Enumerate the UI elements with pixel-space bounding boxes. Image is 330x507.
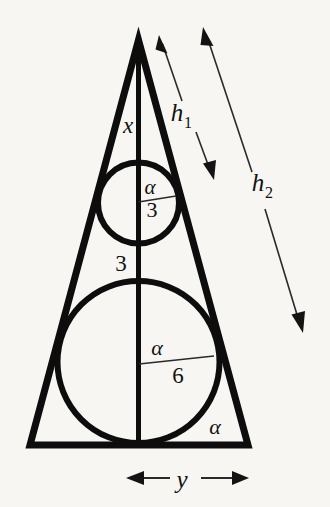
label-apex-segment-x: x: [122, 113, 134, 138]
geometry-figure: x α 3 3 α 6 α h 1 h 2 y: [0, 0, 330, 507]
label-height-one-letter: h: [171, 99, 184, 126]
label-gap-between-circles: 3: [115, 251, 127, 276]
figure-background: [0, 0, 330, 507]
label-height-two-subscript: 2: [265, 184, 273, 201]
label-large-circle-radius: 6: [172, 363, 184, 388]
label-small-circle-angle: α: [144, 175, 156, 199]
label-large-circle-angle: α: [151, 335, 163, 360]
label-height-one-subscript: 1: [184, 114, 192, 131]
figure-canvas: x α 3 3 α 6 α h 1 h 2 y: [0, 0, 330, 507]
label-small-circle-radius: 3: [147, 197, 158, 222]
label-base-dimension-y: y: [173, 466, 188, 493]
label-base-angle: α: [209, 414, 221, 439]
label-height-two-letter: h: [252, 169, 265, 196]
